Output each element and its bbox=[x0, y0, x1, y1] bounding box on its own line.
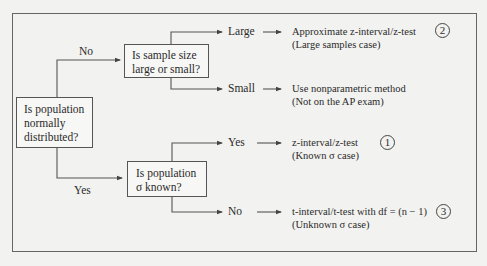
question-line: Is population bbox=[136, 166, 198, 180]
result-nonparametric: Use nonparametric method (Not on the AP … bbox=[292, 82, 406, 108]
edge-label-large: Large bbox=[228, 25, 255, 38]
marker-circle-3: 3 bbox=[436, 204, 451, 219]
result-large-samples: Approximate z-interval/z-test (Large sam… bbox=[292, 25, 416, 51]
result-line: t-interval/t-test with df = (n − 1) bbox=[292, 205, 427, 218]
edge-label-sigma-yes: Yes bbox=[228, 136, 245, 149]
question-line: Is sample size bbox=[132, 48, 201, 62]
root-question-line: normally bbox=[24, 116, 85, 130]
result-line: z-interval/z-test bbox=[292, 136, 359, 149]
edge-label-no: No bbox=[79, 45, 93, 58]
sigma-known-question-box: Is population σ known? bbox=[127, 161, 207, 197]
sample-size-question-box: Is sample size large or small? bbox=[124, 44, 209, 78]
result-known-sigma: z-interval/z-test (Known σ case) bbox=[292, 136, 359, 162]
result-line: (Large samples case) bbox=[292, 38, 416, 51]
root-question-box: Is population normally distributed? bbox=[16, 97, 93, 148]
result-unknown-sigma: t-interval/t-test with df = (n − 1) (Unk… bbox=[292, 205, 427, 231]
result-line: (Known σ case) bbox=[292, 149, 359, 162]
result-line: Use nonparametric method bbox=[292, 82, 406, 95]
result-line: (Unknown σ case) bbox=[292, 218, 427, 231]
marker-circle-1: 1 bbox=[380, 135, 395, 150]
root-question-line: Is population bbox=[24, 102, 85, 116]
edge-label-small: Small bbox=[228, 82, 255, 95]
question-line: σ known? bbox=[136, 180, 198, 194]
result-line: Approximate z-interval/z-test bbox=[292, 25, 416, 38]
result-line: (Not on the AP exam) bbox=[292, 95, 406, 108]
question-line: large or small? bbox=[132, 62, 201, 76]
edge-label-sigma-no: No bbox=[228, 205, 242, 218]
edge-label-yes: Yes bbox=[74, 184, 91, 197]
root-question-line: distributed? bbox=[24, 130, 85, 144]
marker-circle-2: 2 bbox=[435, 23, 450, 38]
